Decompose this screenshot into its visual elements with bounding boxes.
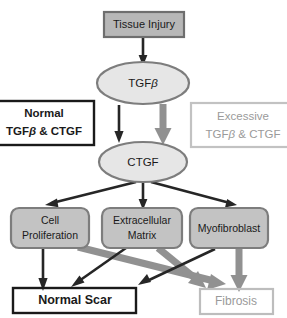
node-tgfb[interactable]: TGFβ <box>97 62 189 104</box>
node-fibrosis[interactable]: Fibrosis <box>200 289 273 314</box>
node-extracellular-matrix-line1: Extracellular <box>113 214 171 226</box>
edge-myofibroblast-to-fibrosis <box>231 248 248 292</box>
node-extracellular-matrix[interactable]: Extracellular Matrix <box>102 208 182 248</box>
node-ctgf[interactable]: CTGF <box>99 142 187 182</box>
node-myofibroblast-label: Myofibroblast <box>198 222 261 234</box>
edge-tgfb-to-ctgf-normal <box>114 105 123 143</box>
node-extracellular-matrix-line2: Matrix <box>128 229 157 241</box>
node-normal-scar[interactable]: Normal Scar <box>13 288 136 313</box>
node-cell-proliferation[interactable]: Cell Proliferation <box>11 208 89 248</box>
node-ctgf-label: CTGF <box>127 156 158 168</box>
annotation-excessive-line2: TGFβ & CTGF <box>206 128 281 140</box>
figure-canvas: Tissue Injury TGFβ Normal TGFβ & CTGF Ex… <box>0 0 287 318</box>
node-tissue-injury-label: Tissue Injury <box>113 18 175 30</box>
node-cell-proliferation-line1: Cell <box>41 214 59 226</box>
node-normal-scar-label: Normal Scar <box>38 293 112 307</box>
edge-tgfb-to-ctgf-excessive <box>155 104 172 145</box>
annotation-normal-line2: TGFβ & CTGF <box>6 125 82 137</box>
node-tissue-injury[interactable]: Tissue Injury <box>104 12 184 37</box>
edge-cell-proliferation-to-normal-scar <box>38 248 47 291</box>
annotation-excessive-line1: Excessive <box>217 110 269 122</box>
annotation-excessive: Excessive TGFβ & CTGF <box>191 103 287 147</box>
edge-ctgf-to-cell-proliferation <box>45 182 136 207</box>
node-tgfb-label: TGFβ <box>128 77 158 89</box>
annotation-normal: Normal TGFβ & CTGF <box>0 101 94 145</box>
node-fibrosis-label: Fibrosis <box>215 294 257 308</box>
node-myofibroblast[interactable]: Myofibroblast <box>190 208 268 248</box>
edge-ctgf-to-myofibroblast <box>151 182 237 207</box>
annotation-normal-line1: Normal <box>24 107 64 119</box>
node-cell-proliferation-line2: Proliferation <box>22 229 78 241</box>
pathway-diagram: Tissue Injury TGFβ Normal TGFβ & CTGF Ex… <box>0 0 287 318</box>
edge-ctgf-to-extracellular-matrix <box>139 183 148 210</box>
